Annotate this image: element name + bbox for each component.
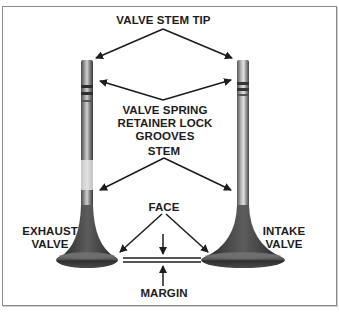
label-stem: STEM (144, 145, 184, 158)
label-exhaust-valve: EXHAUST VALVE (20, 225, 80, 251)
label-intake-line1: INTAKE (256, 225, 312, 238)
label-retainer-lock-grooves: VALVE SPRING RETAINER LOCK GROOVES (110, 104, 220, 143)
label-exhaust-line1: EXHAUST (20, 225, 80, 238)
label-intake-valve: INTAKE VALVE (256, 225, 312, 251)
label-retainer-line2: RETAINER LOCK (110, 117, 220, 130)
face-arrows (120, 214, 208, 252)
label-retainer-line1: VALVE SPRING (110, 104, 220, 117)
label-margin: MARGIN (136, 287, 192, 300)
margin-indicator (123, 234, 201, 286)
retainer-grooves-arrows (100, 80, 231, 100)
valve-stem-tip-arrows (96, 29, 232, 58)
label-intake-line2: VALVE (256, 238, 312, 251)
label-exhaust-line2: VALVE (20, 238, 80, 251)
label-valve-stem-tip: VALVE STEM TIP (116, 14, 211, 27)
label-retainer-line3: GROOVES (110, 130, 220, 143)
label-face: FACE (144, 201, 184, 214)
stem-arrows (100, 158, 231, 190)
